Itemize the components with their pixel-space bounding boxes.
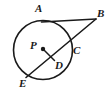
center-point-dot xyxy=(41,47,45,51)
geometry-canvas xyxy=(0,0,111,91)
point-label-b: B xyxy=(97,8,104,19)
point-label-p: P xyxy=(30,40,37,51)
point-label-d: D xyxy=(55,60,63,71)
point-label-e: E xyxy=(19,78,26,89)
point-label-a: A xyxy=(35,3,42,14)
geometry-figure: A B C D E P xyxy=(0,0,111,91)
point-label-c: C xyxy=(73,45,80,56)
